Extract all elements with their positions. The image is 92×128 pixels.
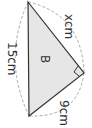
label-hypotenuse: 15cm <box>5 42 19 76</box>
triangle-diagram: 15cm B xcm 9cm <box>0 0 92 128</box>
label-region-b: B <box>38 55 52 63</box>
label-lower-leg: 9cm <box>57 100 71 126</box>
label-upper-leg: xcm <box>62 14 76 39</box>
